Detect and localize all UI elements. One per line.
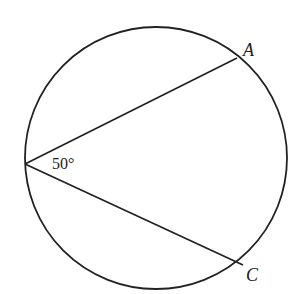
diagram-canvas: 50° A C	[0, 0, 302, 294]
angle-label: 50°	[52, 155, 74, 172]
chord-to-a	[25, 58, 237, 164]
point-a-label: A	[242, 40, 255, 60]
chord-to-c	[25, 164, 243, 265]
point-c-label: C	[246, 265, 259, 285]
